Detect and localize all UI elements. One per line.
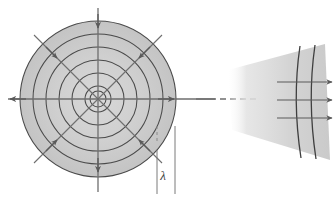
spherical-source-group: λ <box>8 8 216 194</box>
physics-wavefront-figure: λ <box>0 0 335 205</box>
plane-wavefront-group <box>228 44 332 160</box>
far-field-wedge <box>228 44 330 160</box>
wavelength-symbol: λ <box>159 168 166 183</box>
wavefront-diagram-canvas: λ <box>0 0 335 205</box>
